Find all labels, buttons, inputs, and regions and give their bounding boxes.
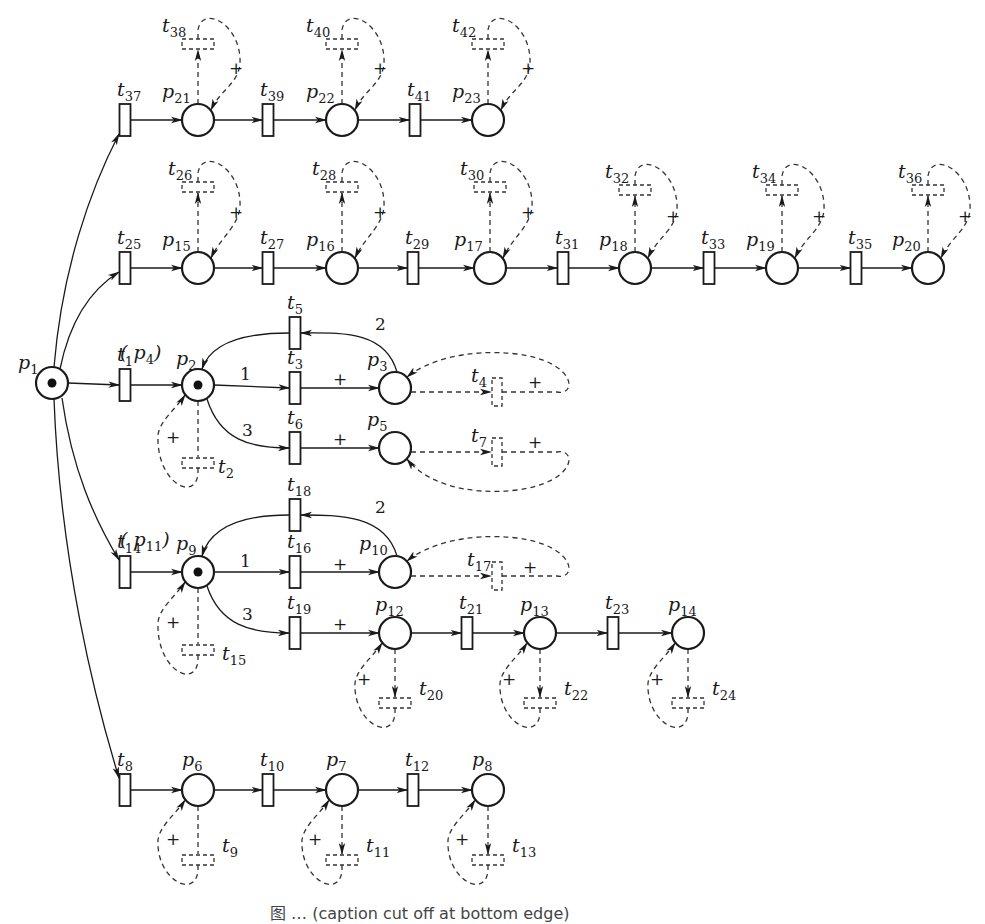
plus-mark: + bbox=[812, 206, 826, 226]
virtual-transition-t32 bbox=[619, 185, 651, 195]
virtual-transition-t20 bbox=[379, 698, 411, 708]
transition-t3 bbox=[290, 372, 301, 404]
transition-t31 bbox=[558, 252, 569, 284]
plus-mark: + bbox=[229, 58, 243, 78]
label-p9: p9 bbox=[176, 532, 196, 558]
label-p12: p12 bbox=[375, 593, 404, 619]
label-t5: t5 bbox=[287, 291, 303, 317]
label-t15: t15 bbox=[222, 642, 246, 668]
arc-weight: 1 bbox=[240, 364, 251, 384]
virtual-transition-t2 bbox=[182, 458, 214, 468]
transition-t29 bbox=[408, 252, 419, 284]
transition-t25 bbox=[120, 252, 131, 284]
place-p13 bbox=[524, 617, 556, 649]
plus-mark: + bbox=[528, 432, 542, 452]
label-t6: t6 bbox=[287, 406, 303, 432]
virtual-transition-t26 bbox=[182, 182, 214, 192]
label-t24: t24 bbox=[712, 677, 736, 703]
arc-weight: 3 bbox=[242, 604, 253, 624]
virtual-transition-t30 bbox=[474, 182, 506, 192]
plus-mark: + bbox=[666, 206, 680, 226]
arc bbox=[60, 272, 119, 369]
label-t7: t7 bbox=[471, 424, 487, 450]
plus-mark: + bbox=[308, 829, 322, 849]
label-p15: p15 bbox=[162, 228, 191, 254]
label-p5: p5 bbox=[367, 408, 387, 434]
label-p6: p6 bbox=[182, 748, 202, 774]
arc bbox=[62, 398, 119, 560]
virtual-transition-t15 bbox=[182, 645, 214, 655]
plus-mark: + bbox=[333, 554, 347, 574]
plus-mark: + bbox=[166, 612, 180, 632]
label-p17: p17 bbox=[454, 228, 483, 254]
arc bbox=[68, 383, 120, 385]
label-t19: t19 bbox=[287, 591, 311, 617]
token-icon bbox=[194, 381, 203, 390]
label-t29: t29 bbox=[405, 226, 429, 252]
label-t22: t22 bbox=[564, 677, 588, 703]
transition-t37 bbox=[120, 104, 131, 136]
plus-mark: + bbox=[166, 427, 180, 447]
transition-t23 bbox=[608, 617, 619, 649]
plus-mark: + bbox=[958, 206, 972, 226]
transition-t1 bbox=[120, 369, 131, 401]
label-p21: p21 bbox=[162, 80, 191, 106]
label-p16: p16 bbox=[306, 228, 335, 254]
label-t26: t26 bbox=[168, 157, 192, 183]
virtual-transition-t28 bbox=[326, 182, 358, 192]
figure-caption: 图 … (caption cut off at bottom edge) bbox=[270, 900, 569, 924]
label-p3: p3 bbox=[367, 348, 387, 374]
plus-mark: + bbox=[333, 369, 347, 389]
label-t32: t32 bbox=[605, 160, 629, 186]
labels-layer: p1p2( p4)p3p5p9( p11)p10p12p13p14p6p7p8p… bbox=[18, 14, 972, 860]
place-p6 bbox=[182, 774, 214, 806]
place-p23 bbox=[472, 104, 504, 136]
label-t10: t10 bbox=[260, 748, 284, 774]
transition-t14 bbox=[120, 556, 131, 588]
plus-mark: + bbox=[523, 557, 537, 577]
label-t18: t18 bbox=[287, 473, 311, 499]
plus-mark: + bbox=[521, 58, 535, 78]
plus-mark: + bbox=[528, 372, 542, 392]
arc bbox=[54, 134, 119, 367]
label-t36: t36 bbox=[898, 160, 922, 186]
transition-t39 bbox=[263, 104, 274, 136]
label-t39: t39 bbox=[260, 78, 284, 104]
token-icon bbox=[48, 379, 57, 388]
plus-mark: + bbox=[502, 669, 516, 689]
place-p15 bbox=[182, 252, 214, 284]
label-t42: t42 bbox=[452, 14, 476, 40]
label-t28: t28 bbox=[312, 157, 336, 183]
virtual-transition-t36 bbox=[912, 185, 944, 195]
plus-mark: + bbox=[373, 58, 387, 78]
place-p12 bbox=[379, 617, 411, 649]
label-t25: t25 bbox=[117, 226, 141, 252]
arc-weight: 1 bbox=[240, 551, 251, 571]
place-p8 bbox=[472, 774, 504, 806]
transition-t10 bbox=[263, 774, 274, 806]
label-t35: t35 bbox=[848, 226, 872, 252]
label-t27: t27 bbox=[260, 226, 284, 252]
label-t12: t12 bbox=[405, 748, 429, 774]
label-t20: t20 bbox=[419, 677, 443, 703]
plus-mark: + bbox=[333, 614, 347, 634]
label-p7: p7 bbox=[326, 748, 346, 774]
place-p22 bbox=[326, 104, 358, 136]
transition-t16 bbox=[290, 556, 301, 588]
label-p2: p2 bbox=[176, 347, 196, 373]
label-p22: p22 bbox=[306, 80, 335, 106]
plus-mark: + bbox=[229, 202, 243, 222]
plus-mark: + bbox=[455, 829, 469, 849]
transition-t19 bbox=[290, 617, 301, 649]
transition-t41 bbox=[410, 104, 421, 136]
arc bbox=[407, 452, 569, 492]
arc bbox=[407, 353, 569, 393]
label-p20: p20 bbox=[892, 228, 921, 254]
plus-mark: + bbox=[521, 202, 535, 222]
label-t17: t17 bbox=[467, 548, 491, 574]
label-p13: p13 bbox=[520, 593, 549, 619]
label-t37: t37 bbox=[117, 78, 141, 104]
transition-t27 bbox=[263, 252, 274, 284]
virtual-transition-t38 bbox=[182, 39, 214, 49]
